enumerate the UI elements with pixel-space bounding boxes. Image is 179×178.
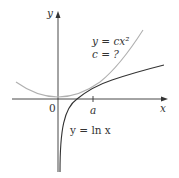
diagram: y x 0 a y = cx² c = ? y = ln x [0,0,179,178]
y-axis [56,11,61,172]
parabola-c-label: c = ? [92,48,119,60]
x-axis-label: x [160,102,166,114]
origin-label: 0 [49,102,56,114]
parabola-label: y = cx² [91,35,129,47]
log-curve-label: y = ln x [69,124,111,136]
tick-a-label: a [90,104,96,116]
x-axis [12,97,168,102]
y-axis-arrow-icon [56,11,61,18]
x-axis-arrow-icon [161,97,168,102]
log-curve [60,65,164,172]
y-axis-label: y [46,7,54,19]
